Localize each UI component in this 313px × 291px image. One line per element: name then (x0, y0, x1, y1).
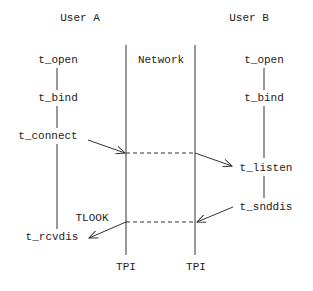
user-a-t-open: t_open (38, 54, 78, 66)
user-b-t-open: t_open (244, 54, 284, 66)
user-b-t-bind: t_bind (244, 92, 284, 104)
rcvdis-arrow-icon (89, 222, 126, 238)
network-label: Network (138, 54, 185, 66)
listen-arrow-icon (195, 153, 232, 166)
connect-arrow-icon (88, 140, 125, 153)
user-a-t-connect: t_connect (18, 130, 77, 142)
user-a-t-rcvdis: t_rcvdis (26, 231, 79, 243)
tli-sequence-diagram: User A User B Network t_open t_bind t_co… (0, 0, 313, 291)
tlook-event-label: TLOOK (75, 212, 108, 224)
user-b-t-snddis: t_snddis (240, 201, 293, 213)
tpi-label-left: TPI (116, 261, 136, 273)
user-a-header: User A (60, 12, 100, 24)
tpi-label-right: TPI (186, 261, 206, 273)
snddis-arrow-icon (197, 207, 233, 222)
user-a-t-bind: t_bind (38, 92, 78, 104)
user-b-t-listen: t_listen (240, 162, 293, 174)
user-b-header: User B (229, 12, 269, 24)
